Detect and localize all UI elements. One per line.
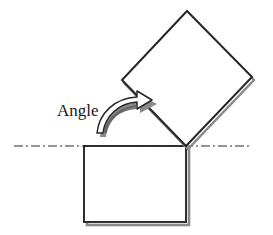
geometry-figure: Angle xyxy=(0,0,273,235)
base-square xyxy=(84,146,186,222)
figure-canvas: Angle xyxy=(0,0,273,235)
angle-label: Angle xyxy=(57,101,99,120)
rotated-square xyxy=(122,11,252,146)
